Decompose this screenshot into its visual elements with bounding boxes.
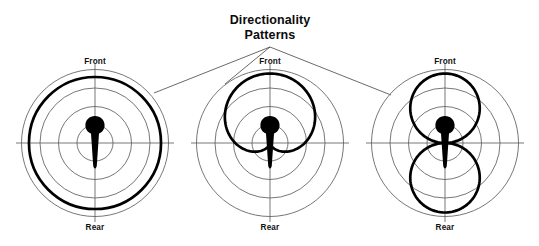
figure-canvas: Directionality Patterns Fro bbox=[0, 0, 539, 246]
figure-title-line2: Patterns bbox=[245, 28, 296, 42]
figure-title-line1: Directionality bbox=[230, 13, 311, 27]
directionality-patterns-figure: Directionality Patterns Fro bbox=[0, 0, 539, 246]
rear-label-bidirectional: Rear bbox=[436, 223, 455, 232]
front-label-omnidirectional: Front bbox=[84, 57, 106, 66]
front-label-bidirectional: Front bbox=[434, 57, 456, 66]
rear-label-omnidirectional: Rear bbox=[86, 223, 105, 232]
front-label-cardioid: Front bbox=[259, 57, 281, 66]
rear-label-cardioid: Rear bbox=[261, 223, 280, 232]
